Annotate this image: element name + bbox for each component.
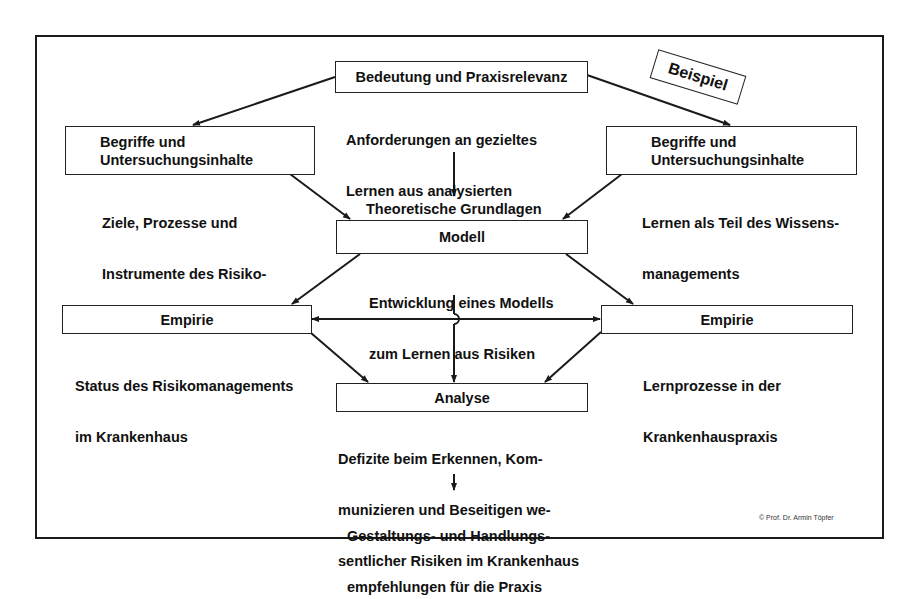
model-caption-above: Theoretische Grundlagen: [366, 201, 542, 218]
box-left-empirics: Empirie: [62, 305, 312, 334]
text-line: Entwicklung eines Modells: [369, 295, 554, 312]
left-empirics-description: Status des Risikomanagements im Krankenh…: [75, 344, 293, 463]
right-concepts-description: Lernen als Teil des Wissens- managements: [642, 181, 839, 300]
text-line: Instrumente des Risiko-: [102, 266, 266, 283]
box-model: Modell: [336, 220, 588, 254]
text-line: Lernen als Teil des Wissens-: [642, 215, 839, 232]
box-label: Empirie: [160, 312, 213, 328]
box-label-line: Untersuchungsinhalte: [651, 151, 804, 169]
box-bedeutung-praxisrelevanz: Bedeutung und Praxisrelevanz: [335, 61, 588, 93]
copyright-note: © Prof. Dr. Armin Töpfer: [759, 514, 834, 521]
box-label-line: Begriffe und: [651, 133, 736, 151]
text-line: empfehlungen für die Praxis: [347, 579, 550, 596]
text-line: Gestaltungs- und Handlungs-: [347, 528, 550, 545]
text-line: zum Lernen aus Risiken: [369, 346, 554, 363]
box-right-empirics: Empirie: [601, 305, 853, 334]
box-label-line: Begriffe und: [100, 133, 185, 151]
text-line: Lernen aus analysierten: [346, 183, 537, 200]
text-line: Lernprozesse in der: [643, 378, 781, 395]
text-line: Ziele, Prozesse und: [102, 215, 266, 232]
box-label: Modell: [439, 229, 485, 245]
box-label: Bedeutung und Praxisrelevanz: [356, 69, 568, 85]
box-label-line: Untersuchungsinhalte: [100, 151, 253, 169]
box-analysis: Analyse: [336, 383, 588, 412]
text-line: managements: [642, 266, 839, 283]
box-label: Empirie: [700, 312, 753, 328]
box-left-concepts: Begriffe und Untersuchungsinhalte: [65, 126, 315, 175]
right-empirics-description: Lernprozesse in der Krankenhauspraxis: [643, 344, 781, 463]
text-line: Anforderungen an gezieltes: [346, 132, 537, 149]
box-right-concepts: Begriffe und Untersuchungsinhalte: [606, 126, 857, 175]
model-description: Entwicklung eines Modells zum Lernen aus…: [369, 261, 554, 380]
text-line: im Krankenhaus: [75, 429, 293, 446]
text-line: Krankenhauspraxis: [643, 429, 781, 446]
outcome-recommendations: Gestaltungs- und Handlungs- empfehlungen…: [347, 494, 550, 599]
text-line: Status des Risikomanagements: [75, 378, 293, 395]
text-line: Defizite beim Erkennen, Kom-: [338, 451, 579, 468]
box-label: Analyse: [434, 390, 490, 406]
